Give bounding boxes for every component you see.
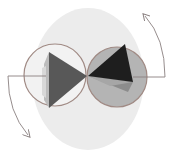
rotation-diagram — [0, 0, 175, 156]
diagram-canvas — [0, 0, 175, 156]
